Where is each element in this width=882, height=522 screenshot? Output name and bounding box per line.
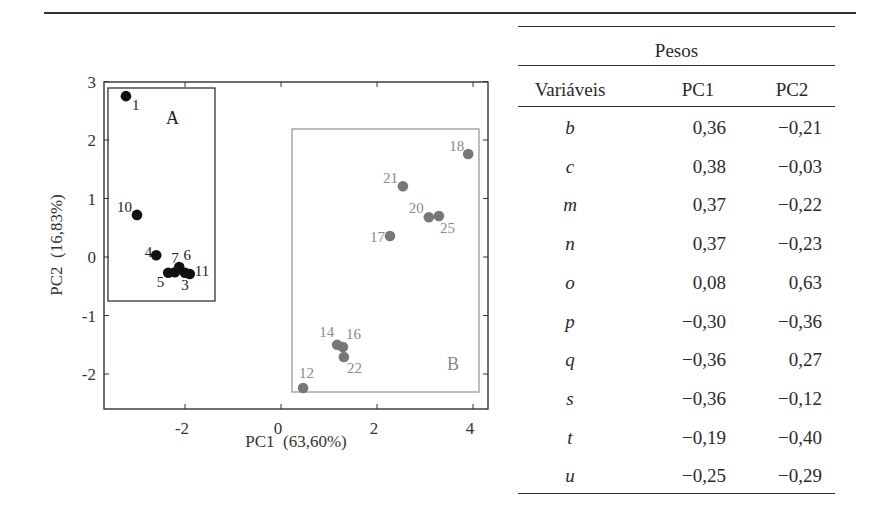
pc2-cell: −0,23 <box>732 233 822 255</box>
point-label: 12 <box>299 365 314 381</box>
point-label: 21 <box>383 170 398 186</box>
point-label: 10 <box>117 199 132 215</box>
table-bottom-rule <box>518 493 835 494</box>
point-label: 17 <box>370 229 386 245</box>
x-tick-label: 2 <box>370 419 379 438</box>
group-b-box <box>292 129 479 392</box>
axis-ticks <box>104 82 488 410</box>
pc2-cell: −0,40 <box>732 427 822 449</box>
y-tick-label: 0 <box>88 248 97 267</box>
x-axis-label: PC1 (63,60%) <box>245 432 347 451</box>
pc2-cell: −0,22 <box>732 194 822 216</box>
data-point <box>121 91 132 102</box>
point-label: 4 <box>145 244 153 260</box>
table-header-rule <box>518 65 835 66</box>
table-group-header: Pesos <box>518 40 835 62</box>
pc1-cell: −0,36 <box>638 388 726 410</box>
data-point <box>338 342 349 353</box>
variable-cell: u <box>518 465 622 487</box>
data-point <box>385 231 396 242</box>
data-point <box>398 181 409 192</box>
pc1-cell: 0,37 <box>638 194 726 216</box>
x-tick-label: -2 <box>175 419 189 438</box>
point-label: 20 <box>409 200 424 216</box>
pc1-cell: −0,30 <box>638 311 726 333</box>
table-top-rule <box>518 26 835 27</box>
y-axis-label: PC2 (16,83%) <box>47 194 66 296</box>
data-point <box>463 149 474 160</box>
point-label: 11 <box>195 263 209 279</box>
variable-cell: o <box>518 272 622 294</box>
pc1-cell: −0,25 <box>638 465 726 487</box>
pc2-cell: −0,21 <box>732 117 822 139</box>
y-tick-label: 1 <box>88 190 97 209</box>
variable-cell: p <box>518 311 622 333</box>
pc2-cell: 0,27 <box>732 349 822 371</box>
variable-cell: m <box>518 194 622 216</box>
table-columns-rule <box>518 106 835 107</box>
data-points: 1104576311182120251714162212 <box>117 91 474 394</box>
pc1-cell: 0,08 <box>638 272 726 294</box>
point-label: 3 <box>181 277 189 293</box>
point-label: 6 <box>183 247 191 263</box>
variable-cell: n <box>518 233 622 255</box>
y-tick-label: -1 <box>82 307 96 326</box>
point-label: 22 <box>347 360 362 376</box>
group-b-label: B <box>447 354 459 374</box>
pca-score-plot: -20243210-1-2 A B 1104576311182120251714… <box>0 0 510 522</box>
pc2-cell: −0,12 <box>732 388 822 410</box>
pc2-cell: 0,63 <box>732 272 822 294</box>
point-label: 14 <box>319 324 335 340</box>
point-label: 1 <box>132 97 140 113</box>
group-a-label: A <box>166 108 179 128</box>
variable-cell: t <box>518 427 622 449</box>
pc1-cell: 0,36 <box>638 117 726 139</box>
tick-labels: -20243210-1-2 <box>82 73 475 439</box>
point-label: 16 <box>346 326 362 342</box>
pc2-cell: −0,36 <box>732 311 822 333</box>
x-tick-label: 4 <box>466 419 475 438</box>
data-point <box>424 212 435 223</box>
point-label: 18 <box>449 138 464 154</box>
point-label: 5 <box>157 274 165 290</box>
col-header-pc1: PC1 <box>668 79 728 101</box>
data-point <box>298 383 309 394</box>
axes-frame <box>104 82 488 409</box>
data-point <box>151 250 162 261</box>
variable-cell: c <box>518 156 622 178</box>
y-tick-label: 3 <box>88 73 97 92</box>
pc2-cell: −0,29 <box>732 465 822 487</box>
pc2-cell: −0,03 <box>732 156 822 178</box>
pc1-cell: −0,36 <box>638 349 726 371</box>
pc1-cell: 0,37 <box>638 233 726 255</box>
y-tick-label: 2 <box>88 131 97 150</box>
pc1-cell: −0,19 <box>638 427 726 449</box>
data-point <box>185 269 196 280</box>
pc1-cell: 0,38 <box>638 156 726 178</box>
variable-cell: b <box>518 117 622 139</box>
col-header-pc2: PC2 <box>762 79 822 101</box>
data-point <box>132 210 143 221</box>
variable-cell: s <box>518 388 622 410</box>
col-header-variables: Variáveis <box>518 79 622 101</box>
point-label: 25 <box>440 220 455 236</box>
y-tick-label: -2 <box>82 365 96 384</box>
variable-cell: q <box>518 349 622 371</box>
